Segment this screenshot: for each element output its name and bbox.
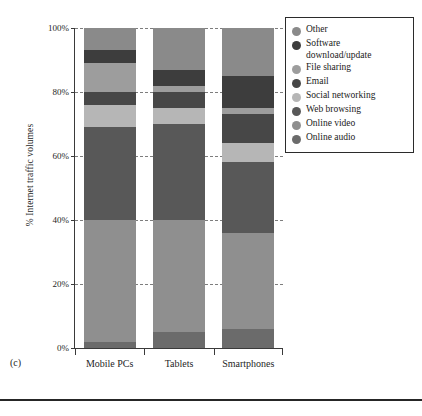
figure-panel-c: % Internet traffic volumes 0%20%40%60%80… (0, 0, 422, 416)
bar-segment[interactable] (222, 233, 274, 329)
bar-segment[interactable] (222, 76, 274, 108)
bar-segment[interactable] (84, 127, 136, 220)
bar-segment[interactable] (153, 220, 205, 332)
x-tick-mark (144, 349, 145, 355)
bar-segment[interactable] (222, 162, 274, 232)
legend-swatch-circle-icon (292, 65, 301, 74)
legend-item[interactable]: Online audio (292, 132, 408, 145)
legend-label: Social networking (306, 90, 375, 102)
legend-swatch-circle-icon (292, 93, 301, 102)
legend-label: Email (306, 76, 329, 88)
bar-segment[interactable] (84, 92, 136, 105)
x-tick-mark (214, 349, 215, 355)
y-axis-label: % Internet traffic volumes (25, 75, 35, 275)
bottom-rule (0, 399, 422, 401)
bar-segment[interactable] (222, 114, 274, 143)
y-tick-label: 60% (29, 151, 69, 161)
legend-label: File sharing (306, 62, 351, 74)
x-category-label: Mobile PCs (86, 358, 134, 369)
legend-item[interactable]: Software download/update (292, 38, 408, 61)
legend-label: Online video (306, 118, 355, 130)
bar-segment[interactable] (222, 329, 274, 348)
bar-smartphones[interactable] (222, 28, 274, 348)
y-tick-label: 0% (29, 343, 69, 353)
bar-segment[interactable] (222, 143, 274, 162)
legend-swatch-circle-icon (292, 41, 301, 50)
y-tick-label: 80% (29, 87, 69, 97)
bar-segment[interactable] (153, 92, 205, 108)
bar-segment[interactable] (84, 342, 136, 348)
y-tick-label: 40% (29, 215, 69, 225)
y-tick-label: 100% (29, 23, 69, 33)
bar-segment[interactable] (153, 332, 205, 348)
legend: OtherSoftware download/updateFile sharin… (285, 17, 414, 153)
bar-segment[interactable] (153, 86, 205, 92)
legend-label: Software download/update (306, 38, 371, 61)
bar-segment[interactable] (153, 108, 205, 124)
legend-swatch-circle-icon (292, 135, 301, 144)
legend-item[interactable]: Other (292, 24, 408, 37)
legend-swatch-circle-icon (292, 27, 301, 36)
legend-label: Web browsing (306, 104, 361, 116)
legend-item[interactable]: Email (292, 76, 408, 89)
bar-segment[interactable] (84, 63, 136, 92)
panel-label: (c) (10, 357, 21, 368)
bar-segment[interactable] (153, 70, 205, 86)
legend-item[interactable]: Web browsing (292, 104, 408, 117)
bar-segment[interactable] (222, 108, 274, 114)
bar-segment[interactable] (84, 50, 136, 63)
bar-segment[interactable] (153, 28, 205, 70)
plot-area: 0%20%40%60%80%100% Mobile PCsTabletsSmar… (75, 28, 283, 348)
x-tick-mark (282, 349, 283, 355)
legend-item[interactable]: Social networking (292, 90, 408, 103)
legend-label: Online audio (306, 132, 355, 144)
bar-segment[interactable] (153, 124, 205, 220)
bar-tablets[interactable] (153, 28, 205, 348)
legend-item[interactable]: Online video (292, 118, 408, 131)
legend-swatch-circle-icon (292, 121, 301, 130)
x-axis-line (74, 348, 283, 349)
x-tick-mark (75, 349, 76, 355)
legend-item[interactable]: File sharing (292, 62, 408, 75)
bar-mobile-pcs[interactable] (84, 28, 136, 348)
bar-segment[interactable] (84, 28, 136, 50)
y-tick-label: 20% (29, 279, 69, 289)
legend-label: Other (306, 24, 328, 36)
x-category-label: Smartphones (222, 358, 274, 369)
bar-segment[interactable] (84, 105, 136, 127)
legend-swatch-circle-icon (292, 79, 301, 88)
legend-swatch-circle-icon (292, 107, 301, 116)
y-axis-line (74, 28, 75, 349)
bar-segment[interactable] (222, 28, 274, 76)
x-category-label: Tablets (165, 358, 194, 369)
bar-segment[interactable] (84, 220, 136, 342)
